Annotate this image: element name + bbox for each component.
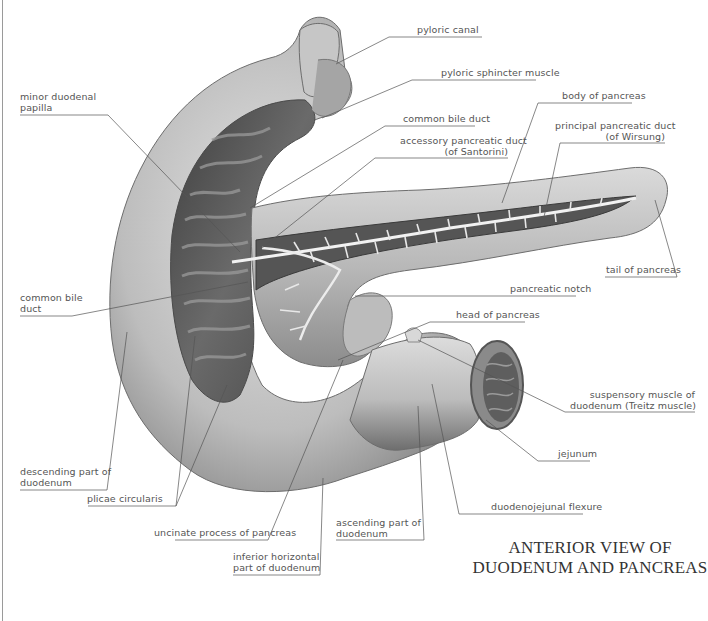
diagram-title: ANTERIOR VIEW OF DUODENUM AND PANCREAS [470,538,708,578]
label-tail-of-pancreas: tail of pancreas [606,264,681,275]
diagram-title-line2: DUODENUM AND PANCREAS [470,558,708,578]
label-principal-duct-line2: (of Wirsung) [555,131,665,142]
label-minor-duodenal-papilla-line1: minor duodenal [20,91,96,102]
label-head-of-pancreas: head of pancreas [456,309,540,320]
label-common-bile-duct-left-line2: duct [20,303,41,314]
label-accessory-duct-line1: accessory pancreatic duct [400,135,508,146]
label-accessory-duct-line2: (of Santorini) [400,146,508,157]
label-pancreatic-notch: pancreatic notch [510,283,591,294]
anatomy-diagram: pyloric canal pyloric sphincter muscle m… [0,0,708,621]
label-ascending-part-line2: duodenum [336,528,388,539]
label-duodenojejunal-flexure: duodenojejunal flexure [491,501,602,512]
label-plicae-circularis: plicae circularis [87,493,163,504]
label-body-of-pancreas: body of pancreas [562,90,646,101]
label-descending-part-line1: descending part of [20,466,111,477]
label-descending-part-line2: duodenum [20,477,72,488]
label-pyloric-sphincter-muscle: pyloric sphincter muscle [441,67,560,78]
label-common-bile-duct-top: common bile duct [403,113,490,124]
label-suspensory-muscle-line2: duodenum (Treitz muscle) [570,400,695,411]
label-inferior-horizontal-line2: part of duodenum [233,562,320,573]
label-jejunum: jejunum [558,448,597,459]
label-uncinate-process: uncinate process of pancreas [154,527,296,538]
diagram-title-line1: ANTERIOR VIEW OF [470,538,708,558]
label-ascending-part-line1: ascending part of [336,517,421,528]
label-pyloric-canal: pyloric canal [417,24,479,35]
treitz-muscle [405,328,422,342]
label-inferior-horizontal-line1: inferior horizontal [233,551,319,562]
label-common-bile-duct-left-line1: common bile [20,292,83,303]
label-suspensory-muscle-line1: suspensory muscle of [570,389,695,400]
label-principal-duct-line1: principal pancreatic duct [555,120,665,131]
label-minor-duodenal-papilla-line2: papilla [20,102,52,113]
